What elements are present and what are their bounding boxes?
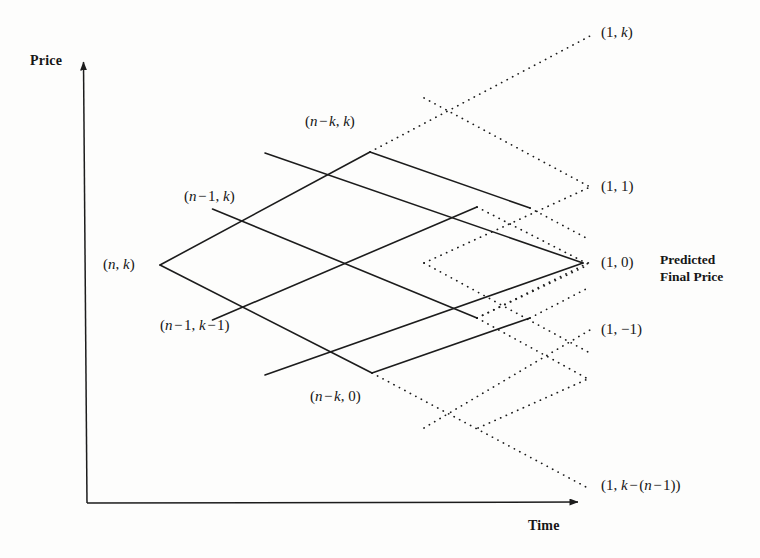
y-axis-label: Price <box>30 53 62 69</box>
dotted-ray-to-1-k <box>370 35 592 152</box>
dotted-ray-upper-e <box>477 207 590 265</box>
node-label-1-0: (1, 0) <box>601 254 634 271</box>
lattice-line-down-4 <box>370 152 530 208</box>
lattice-line-up-3 <box>265 263 583 375</box>
node-label-1-k-minus-n-1: (1, k−(n−1)) <box>601 477 681 494</box>
lattice-line-up-1 <box>160 152 370 265</box>
dotted-ray-lower-e <box>477 262 590 318</box>
dotted-ray-lower-c <box>477 318 590 380</box>
dotted-ray-to-1-k-minus <box>372 373 586 487</box>
dotted-lattice-upper <box>370 35 592 318</box>
x-axis-label: Time <box>528 518 560 534</box>
node-label-n-k: (n, k) <box>103 256 135 273</box>
predicted-final-price-note: Predicted Final Price <box>660 252 723 286</box>
node-label-1-1: (1, 1) <box>601 178 634 195</box>
node-label-n-1-k-1: (n−1, k−1) <box>160 317 230 334</box>
dotted-ray-lower-g <box>530 288 588 318</box>
node-label-n-k-k: (n−k, k) <box>305 113 355 130</box>
lattice-line-down-3 <box>265 153 583 263</box>
x-axis <box>87 502 578 503</box>
predicted-final-price-line2: Final Price <box>660 269 723 286</box>
lattice-drawing <box>0 0 760 558</box>
solid-lattice <box>160 152 583 375</box>
node-label-1-minus-1: (1, −1) <box>601 321 642 338</box>
dotted-lattice-lower <box>372 262 590 487</box>
y-axis <box>84 62 88 503</box>
dotted-ray-upper-f <box>530 208 590 240</box>
node-label-1-k: (1, k) <box>601 24 633 41</box>
dotted-ray-upper-d <box>424 98 592 188</box>
figure-canvas: Price Time (n, k) (n−1, k) (n−1, k−1) (n… <box>0 0 760 558</box>
node-label-n-k-0: (n−k, 0) <box>310 388 361 405</box>
dotted-ray-lower-f <box>478 378 590 428</box>
dotted-ray-lower-b <box>424 263 588 352</box>
node-label-n-1-k: (n−1, k) <box>184 188 235 205</box>
lattice-line-down-2 <box>213 209 478 318</box>
predicted-final-price-line1: Predicted <box>660 252 723 269</box>
lattice-line-up-4 <box>372 318 530 373</box>
